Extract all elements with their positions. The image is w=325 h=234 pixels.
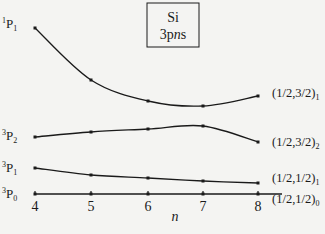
svg-text:4: 4	[32, 199, 39, 214]
svg-text:6: 6	[145, 199, 152, 214]
legend-box: Si 3pns	[147, 3, 199, 47]
x-tick-labels: 45678	[32, 199, 262, 214]
svg-text:7: 7	[200, 199, 207, 214]
legend-line-1: Si	[167, 10, 179, 25]
left-labels: 1P13P23P13P0	[2, 16, 17, 203]
svg-text:3P1: 3P1	[2, 160, 17, 177]
svg-text:(1/2,3/2)2: (1/2,3/2)2	[272, 135, 319, 151]
right-labels: (1/2,3/2)1(1/2,3/2)2(1/2,1/2)1(1/2,1/2)0	[272, 86, 319, 208]
series-curves	[34, 27, 260, 196]
svg-text:(1/2,3/2)1: (1/2,3/2)1	[272, 86, 319, 102]
x-axis-label: n	[172, 209, 179, 224]
svg-text:3P2: 3P2	[2, 128, 17, 145]
level-diagram: Si 3pns 45678 n 1P13P23P13P0 (1/2,3/2)1(…	[0, 0, 325, 234]
svg-text:5: 5	[88, 199, 95, 214]
svg-text:(1/2,1/2)0: (1/2,1/2)0	[272, 192, 319, 208]
svg-text:3P0: 3P0	[2, 186, 17, 203]
svg-text:1P1: 1P1	[2, 16, 17, 33]
svg-text:8: 8	[255, 199, 262, 214]
legend-line-2: 3pns	[160, 27, 186, 42]
svg-text:(1/2,1/2)1: (1/2,1/2)1	[272, 171, 319, 187]
